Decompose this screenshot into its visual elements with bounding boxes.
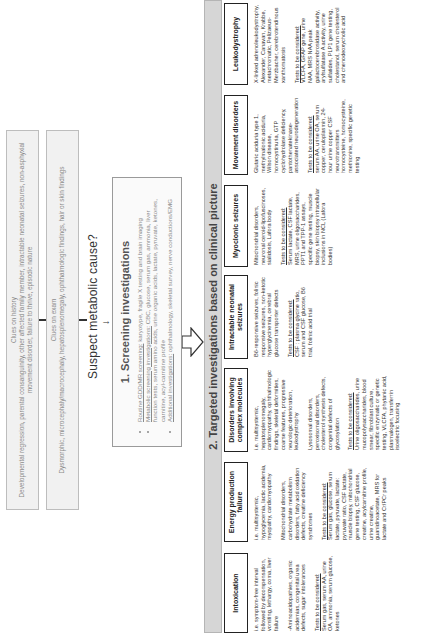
screening-item: Additional investigations: ophthalmology… <box>166 188 174 422</box>
column-complex-molecules: Disorders involving complex molecules i.… <box>224 368 408 452</box>
screening-list: Routine GDD/MR screening: karyotype, fra… <box>136 188 174 436</box>
column-body: X-linked adrenoleukodystrophy, Alexander… <box>248 3 347 85</box>
column-header: Leukodystrophy <box>224 3 248 85</box>
column-energy-production-failure: Energy production failure i.e. multisyst… <box>224 462 395 542</box>
column-header: Intoxication <box>224 553 248 633</box>
column-body: Mitochondrial disorders, neuronal ceroid… <box>248 185 334 267</box>
down-arrow-icon: ↓ <box>101 320 111 325</box>
column-intractable-neonatal-seizures: Intractable neonatal seizures B6-respons… <box>224 275 321 359</box>
screening-item: Routine GDD/MR screening: karyotype, fra… <box>136 188 144 422</box>
column-body: Glutaric aciduria type 1, methylmalonic … <box>248 95 361 175</box>
column-header: Movement disorders <box>224 95 248 175</box>
column-body: i.e. multisystemic, hypoglycemia, lactic… <box>248 462 388 542</box>
clues-exam-title: Clues on exam <box>50 137 58 503</box>
clues-exam-text: Dysmorphic, microcephaly/macrocephaly, h… <box>58 166 65 473</box>
down-arrow-icon <box>182 327 204 357</box>
column-body: i.e. symptom-free interval followed by d… <box>248 553 341 633</box>
column-movement-disorders: Movement disorders Glutaric aciduria typ… <box>224 95 368 175</box>
screening-title: 1. Screening investigations <box>119 188 131 436</box>
column-header: Energy production failure <box>224 462 248 542</box>
connector-line <box>39 320 46 322</box>
clues-history-box: Clues on history Developmental regressio… <box>6 130 39 510</box>
clues-exam-box: Clues on exam Dysmorphic, microcephaly/m… <box>46 130 79 510</box>
screening-box: 1. Screening investigations Routine GDD/… <box>112 177 182 447</box>
column-header: Myoclonic seizures <box>224 185 248 267</box>
column-myoclonic-seizures: Myoclonic seizures Mitochondrial disorde… <box>224 185 341 267</box>
clues-history-title: Clues on history <box>10 137 18 503</box>
clues-history-text: Developmental regression, parental consa… <box>18 143 33 498</box>
column-header: Intractable neonatal seizures <box>224 275 248 359</box>
diagnostic-flowchart: Clues on history Developmental regressio… <box>0 0 448 637</box>
column-leukodystrophy: Leukodystrophy X-linked adrenoleukodystr… <box>224 3 354 85</box>
column-header: Disorders involving complex molecules <box>224 368 248 452</box>
column-body: B6-responsive seizures, folinic responsi… <box>248 275 314 359</box>
column-body: i.e. multisystemic, hepatosplenomegaly, … <box>248 368 401 452</box>
suspect-metabolic-question: Suspect metabolic cause? <box>86 234 100 379</box>
screening-item: Metabolic screening investigations: CBC,… <box>144 188 167 422</box>
column-intoxication: Intoxication i.e. symptom-free interval … <box>224 553 348 633</box>
targeted-investigations-bar: 2. Targeted investigations based on clin… <box>204 0 222 633</box>
